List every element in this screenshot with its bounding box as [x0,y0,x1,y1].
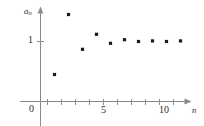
data-points-group [53,13,182,76]
data-point [179,39,182,42]
data-point [165,40,168,43]
sequence-convergence-figure: an n 1 0 5 10 [0,0,204,126]
y-axis-label: an [24,7,32,17]
data-point [151,39,154,42]
x-axis-arrow-icon [185,99,192,105]
y-axis-label-subscript: n [29,9,32,16]
data-point [81,48,84,51]
x-tick-label-10: 10 [159,105,169,115]
data-point [53,73,56,76]
x-axis-label: n [192,106,196,115]
origin-label: 0 [29,104,34,114]
data-point [67,13,70,16]
y-tick-label-1: 1 [28,35,33,45]
data-point [137,40,140,43]
y-axis-arrow-icon [38,7,44,14]
x-tick-label-5: 5 [101,105,106,115]
data-point [109,42,112,45]
data-point [123,38,126,41]
data-point [95,33,98,36]
